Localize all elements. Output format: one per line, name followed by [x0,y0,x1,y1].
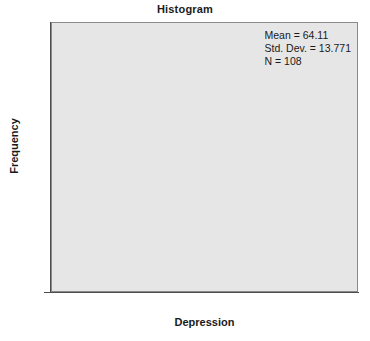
stats-stddev: Std. Dev. = 13.771 [265,42,352,55]
stats-n: N = 108 [265,55,352,68]
x-axis-line [44,292,359,293]
y-axis-title: Frequency [8,86,20,206]
plot-area: Mean = 64.11 Std. Dev. = 13.771 N = 108 [51,22,358,292]
stats-mean: Mean = 64.11 [265,29,352,42]
x-axis-title: Depression [51,316,358,328]
stats-annotation: Mean = 64.11 Std. Dev. = 13.771 N = 108 [265,29,352,68]
chart-title: Histogram [0,3,370,15]
y-axis-line [50,22,51,293]
histogram-figure: Histogram Mean = 64.11 Std. Dev. = 13.77… [0,0,370,341]
